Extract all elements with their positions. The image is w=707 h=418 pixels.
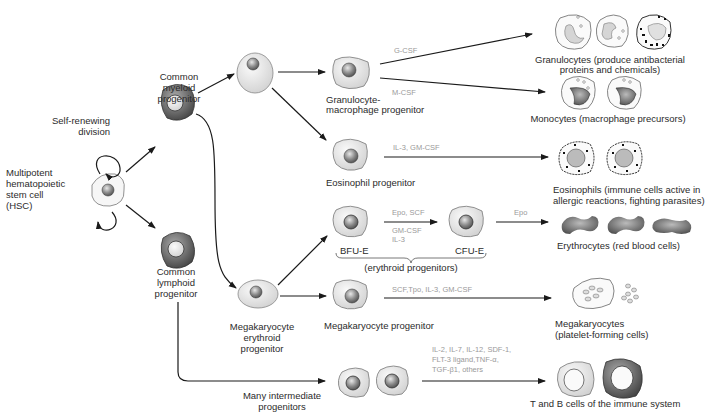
bfu-e-cell xyxy=(333,206,367,237)
svg-text:progenitors: progenitors xyxy=(258,401,306,412)
erythrocytes-label: Erythrocytes (red blood cells) xyxy=(557,240,680,251)
factor-lymphoid: IL-2, IL-7, IL-12, SDF-1, FLT-3 ligand,T… xyxy=(432,345,511,374)
svg-text:progenitor: progenitor xyxy=(241,343,284,354)
cfu-e-cell xyxy=(449,206,483,237)
myeloid-intermediate-cell xyxy=(237,53,273,93)
svg-text:Eosinophils (immune cells acti: Eosinophils (immune cells active in xyxy=(553,184,700,195)
svg-text:Many intermediate: Many intermediate xyxy=(243,390,321,401)
factor-gcsf: G-CSF xyxy=(394,46,418,55)
erythroid-label: (erythroid progenitors) xyxy=(364,262,457,273)
lymphoid-intermediate-cell xyxy=(376,366,408,395)
megakaryocytes-label: Megakaryocytes (platelet-forming cells) xyxy=(555,318,648,340)
granulocyte-cells xyxy=(555,15,671,49)
factor-mcsf: M-CSF xyxy=(392,88,416,97)
factor-epo-scf: Epo, SCF xyxy=(392,208,425,217)
svg-text:Common: Common xyxy=(160,71,199,82)
svg-text:Self-renewing: Self-renewing xyxy=(52,115,110,126)
lymphoid-intermediate-cell xyxy=(338,368,369,397)
mep-label: Megakaryocyte erythroid progenitor xyxy=(230,321,294,354)
arrow-hsc-clp xyxy=(126,205,155,228)
svg-text:IL-2, IL-7, IL-12, SDF-1,: IL-2, IL-7, IL-12, SDF-1, xyxy=(432,345,511,354)
svg-text:stem cell: stem cell xyxy=(6,189,43,200)
cfu-e-label: CFU-E xyxy=(455,245,484,256)
arrow-cmp-mep xyxy=(196,114,236,288)
tb-cells-label: T and B cells of the immune system xyxy=(530,398,680,409)
svg-text:FLT-3 ligand,TNF-α,: FLT-3 ligand,TNF-α, xyxy=(432,355,499,364)
svg-text:proteins and chemicals): proteins and chemicals) xyxy=(560,64,660,75)
clp-label: Common lymphoid progenitor xyxy=(155,266,198,299)
svg-text:Megakaryocytes: Megakaryocytes xyxy=(555,318,624,329)
arrow-mep-bfu-e xyxy=(278,236,327,285)
svg-text:(HSC): (HSC) xyxy=(6,200,32,211)
svg-text:hematopoietic: hematopoietic xyxy=(6,178,65,189)
hsc-cell xyxy=(92,174,124,206)
factor-megakaryocyte: SCF,Tpo, IL-3, GM-CSF xyxy=(392,285,472,294)
monocytes-label: Monocytes (macrophage precursors) xyxy=(530,113,685,124)
bfu-e-label: BFU-E xyxy=(340,245,369,256)
eosinophil-progenitor-label: Eosinophil progenitor xyxy=(326,177,415,188)
intermediate-label: Many intermediate progenitors xyxy=(243,390,321,412)
t-b-cells xyxy=(557,359,642,398)
hematopoiesis-diagram: Multipotent hematopoietic stem cell (HSC… xyxy=(0,0,707,418)
svg-text:Eosinophil progenitor: Eosinophil progenitor xyxy=(326,177,415,188)
svg-text:erythroid: erythroid xyxy=(244,332,281,343)
arrow-hsc-cmp xyxy=(126,147,155,172)
megakaryocyte-progenitor-cell xyxy=(333,280,367,309)
svg-text:macrophage progenitor: macrophage progenitor xyxy=(326,104,424,115)
svg-text:lymphoid: lymphoid xyxy=(157,277,195,288)
svg-text:(platelet-forming cells): (platelet-forming cells) xyxy=(555,329,648,340)
cmp-label: Common myeloid progenitor xyxy=(158,71,201,104)
factor-gmcsf: GM-CSF xyxy=(392,226,422,235)
granulocytes-label: Granulocytes (produce antibacterial prot… xyxy=(535,54,685,75)
svg-text:Megakaryocyte: Megakaryocyte xyxy=(230,321,294,332)
arrow-myeloid-eop xyxy=(272,88,326,140)
factor-il3: IL-3 xyxy=(392,235,405,244)
gmp-label: Granulocyte- macrophage progenitor xyxy=(326,94,424,115)
svg-text:Common: Common xyxy=(157,266,196,277)
clp-cell xyxy=(161,232,194,268)
svg-text:division: division xyxy=(78,126,110,137)
eosinophils-label: Eosinophils (immune cells active in alle… xyxy=(553,184,705,206)
self-renewing-label: Self-renewing division xyxy=(52,115,110,137)
arrow-cmp-myeloid xyxy=(198,74,234,93)
mep-cell xyxy=(238,280,278,308)
factor-eosinophil: IL-3, GM-CSF xyxy=(393,143,440,152)
svg-text:myeloid: myeloid xyxy=(163,82,196,93)
eosinophil-progenitor-cell xyxy=(333,139,367,170)
megakaryocyte-cells xyxy=(573,278,639,308)
monocyte-cells xyxy=(561,76,641,109)
factor-epo: Epo xyxy=(514,208,527,217)
svg-text:progenitor: progenitor xyxy=(155,288,198,299)
hsc-label: Multipotent hematopoietic stem cell (HSC… xyxy=(6,167,65,211)
erythrocyte-cells xyxy=(562,216,692,234)
svg-text:Multipotent: Multipotent xyxy=(6,167,53,178)
svg-text:TGF-β1, others: TGF-β1, others xyxy=(432,365,483,374)
eosinophil-cells xyxy=(559,142,642,175)
svg-text:progenitor: progenitor xyxy=(158,93,201,104)
gmp-cell xyxy=(333,57,370,89)
svg-text:allergic reactions, fighting p: allergic reactions, fighting parasites) xyxy=(553,195,705,206)
megakaryocyte-progenitor-label: Megakaryocyte progenitor xyxy=(324,320,434,331)
self-renew-arrow-bottom xyxy=(98,212,116,230)
